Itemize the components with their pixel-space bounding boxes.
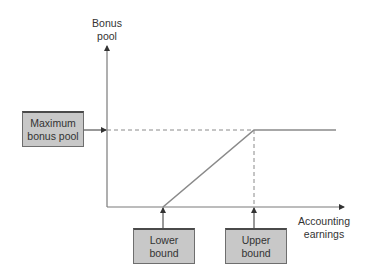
x-axis-label-line2: earnings — [290, 228, 358, 241]
upper-bound-line1: Upper — [241, 234, 270, 247]
x-axis-label: Accounting earnings — [290, 215, 358, 241]
upper-bound-line2: bound — [241, 247, 270, 260]
lower-bound-line2: bound — [149, 247, 178, 260]
x-axis-label-line1: Accounting — [290, 215, 358, 228]
max-bonus-line1: Maximum — [27, 117, 78, 130]
lower-bound-line1: Lower — [149, 234, 178, 247]
y-axis-label-line2: pool — [87, 30, 127, 43]
y-axis-label-line1: Bonus — [87, 17, 127, 30]
max-bonus-line2: bonus pool — [27, 130, 78, 143]
maximum-bonus-pool-box: Maximum bonus pool — [22, 111, 84, 147]
upper-bound-box: Upper bound — [225, 228, 287, 264]
bonus-curve — [163, 130, 336, 207]
lower-bound-box: Lower bound — [133, 228, 195, 264]
y-axis-label: Bonus pool — [87, 17, 127, 43]
